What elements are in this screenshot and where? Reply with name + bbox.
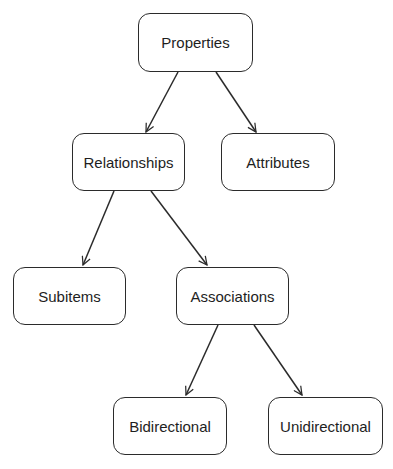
- node-relationships: Relationships: [72, 133, 185, 191]
- node-attributes: Attributes: [221, 133, 335, 191]
- arrow-associations-to-unidirectional: [254, 325, 302, 395]
- node-subitems: Subitems: [13, 267, 126, 325]
- arrow-relationships-to-subitems: [83, 191, 114, 265]
- arrow-properties-to-attributes: [216, 72, 256, 132]
- diagram-canvas: Properties Relationships Attributes Subi…: [0, 0, 393, 469]
- node-label: Subitems: [38, 288, 101, 305]
- node-label: Unidirectional: [280, 418, 371, 435]
- node-label: Attributes: [246, 154, 309, 171]
- node-label: Associations: [190, 288, 274, 305]
- arrow-relationships-to-associations: [151, 191, 207, 265]
- arrow-associations-to-bidirectional: [186, 325, 218, 395]
- node-associations: Associations: [176, 267, 289, 325]
- node-label: Properties: [161, 34, 229, 51]
- arrow-properties-to-relationships: [146, 72, 178, 132]
- node-label: Bidirectional: [129, 418, 211, 435]
- node-label: Relationships: [83, 154, 173, 171]
- node-unidirectional: Unidirectional: [268, 397, 383, 455]
- node-bidirectional: Bidirectional: [113, 397, 227, 455]
- node-properties: Properties: [138, 13, 253, 72]
